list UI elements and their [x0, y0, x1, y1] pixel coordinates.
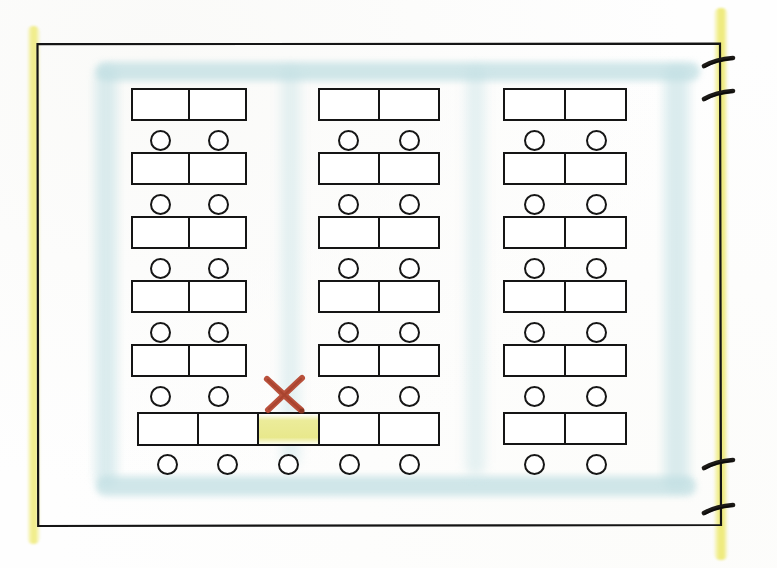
- chair-desk-column-left-desk-row-1-2[interactable]: [208, 130, 229, 151]
- desk-seat-position-2[interactable]: [378, 154, 438, 183]
- chair-desk-column-right-desk-row-5-1[interactable]: [524, 386, 545, 407]
- chair-desk-column-left-desk-row-5-2[interactable]: [208, 386, 229, 407]
- desk-seat-position-2[interactable]: [564, 282, 625, 311]
- desk-seat-position-1[interactable]: [133, 282, 188, 311]
- chair-desk-column-left-desk-row-2-1[interactable]: [150, 194, 171, 215]
- chair-desk-column-center-desk-row-1-2[interactable]: [399, 130, 420, 151]
- desk-desk-column-center-desk-row-3[interactable]: [318, 216, 440, 249]
- desk-desk-column-left-desk-row-4[interactable]: [131, 280, 247, 313]
- desk-seat-position-2[interactable]: [564, 218, 625, 247]
- chair-desk-column-right-desk-row-4-2[interactable]: [586, 322, 607, 343]
- desk-seat-position-2[interactable]: [378, 90, 438, 119]
- chair-desk-column-left-desk-row-4-1[interactable]: [150, 322, 171, 343]
- chair-desk-column-center-desk-row-3-1[interactable]: [338, 258, 359, 279]
- desk-seat-position-2[interactable]: [378, 218, 438, 247]
- desk-seat-position-1[interactable]: [505, 218, 564, 247]
- desk-seat-position-5[interactable]: [378, 414, 438, 444]
- highlighted-seat-position[interactable]: [257, 414, 317, 444]
- desk-desk-column-center-desk-row-2[interactable]: [318, 152, 440, 185]
- desk-seat-position-1[interactable]: [320, 282, 378, 311]
- chair-desk-column-left-desk-row-1-1[interactable]: [150, 130, 171, 151]
- desk-seat-position-1[interactable]: [133, 346, 188, 375]
- chair-desk-column-center-desk-row-3-2[interactable]: [399, 258, 420, 279]
- desk-seat-position-1[interactable]: [505, 282, 564, 311]
- chair-front-bench-row-1[interactable]: [157, 454, 178, 475]
- desk-seat-position-2[interactable]: [188, 218, 245, 247]
- desk-desk-column-right-desk-row-6[interactable]: [503, 412, 627, 445]
- chair-desk-column-right-desk-row-2-2[interactable]: [586, 194, 607, 215]
- desk-seat-position-2[interactable]: [564, 346, 625, 375]
- desk-front-bench-row[interactable]: [137, 412, 440, 446]
- desk-seat-position-2[interactable]: [188, 154, 245, 183]
- chair-desk-column-center-desk-row-4-1[interactable]: [338, 322, 359, 343]
- chair-desk-column-right-desk-row-4-1[interactable]: [524, 322, 545, 343]
- chair-desk-column-right-desk-row-3-1[interactable]: [524, 258, 545, 279]
- chair-desk-column-center-desk-row-4-2[interactable]: [399, 322, 420, 343]
- desk-seat-position-1[interactable]: [139, 414, 197, 444]
- desk-seat-position-2[interactable]: [188, 346, 245, 375]
- chair-desk-column-center-desk-row-5-1[interactable]: [338, 386, 359, 407]
- desk-seat-position-1[interactable]: [133, 90, 188, 119]
- desk-seat-position-1[interactable]: [320, 90, 378, 119]
- chair-desk-column-right-desk-row-6-1[interactable]: [524, 454, 545, 475]
- chair-desk-column-right-desk-row-1-1[interactable]: [524, 130, 545, 151]
- desk-seat-position-1[interactable]: [320, 154, 378, 183]
- desk-seat-position-1[interactable]: [505, 346, 564, 375]
- desk-seat-position-2[interactable]: [378, 346, 438, 375]
- desk-desk-column-center-desk-row-4[interactable]: [318, 280, 440, 313]
- desk-desk-column-left-desk-row-5[interactable]: [131, 344, 247, 377]
- chair-front-bench-row-3[interactable]: [278, 454, 299, 475]
- chair-desk-column-left-desk-row-2-2[interactable]: [208, 194, 229, 215]
- desk-desk-column-left-desk-row-2[interactable]: [131, 152, 247, 185]
- chair-desk-column-center-desk-row-2-2[interactable]: [399, 194, 420, 215]
- desk-seat-position-2[interactable]: [188, 90, 245, 119]
- chair-desk-column-left-desk-row-5-1[interactable]: [150, 386, 171, 407]
- chair-desk-column-right-desk-row-6-2[interactable]: [586, 454, 607, 475]
- desk-seat-position-1[interactable]: [320, 218, 378, 247]
- desk-desk-column-left-desk-row-3[interactable]: [131, 216, 247, 249]
- chair-desk-column-right-desk-row-5-2[interactable]: [586, 386, 607, 407]
- desk-seat-position-2[interactable]: [564, 90, 625, 119]
- desk-desk-column-right-desk-row-3[interactable]: [503, 216, 627, 249]
- chair-desk-column-right-desk-row-3-2[interactable]: [586, 258, 607, 279]
- chair-desk-column-center-desk-row-2-1[interactable]: [338, 194, 359, 215]
- desk-seat-position-1[interactable]: [505, 154, 564, 183]
- chair-desk-column-right-desk-row-1-2[interactable]: [586, 130, 607, 151]
- chair-desk-column-left-desk-row-4-2[interactable]: [208, 322, 229, 343]
- desk-seat-position-2[interactable]: [564, 154, 625, 183]
- floor-plan-canvas: [0, 0, 777, 568]
- chair-front-bench-row-4[interactable]: [339, 454, 360, 475]
- desk-desk-column-right-desk-row-2[interactable]: [503, 152, 627, 185]
- chair-desk-column-left-desk-row-3-1[interactable]: [150, 258, 171, 279]
- desk-seat-position-1[interactable]: [320, 346, 378, 375]
- chair-desk-column-right-desk-row-2-1[interactable]: [524, 194, 545, 215]
- desk-desk-column-right-desk-row-4[interactable]: [503, 280, 627, 313]
- desk-seat-position-2[interactable]: [188, 282, 245, 311]
- desk-desk-column-left-desk-row-1[interactable]: [131, 88, 247, 121]
- chair-desk-column-center-desk-row-5-2[interactable]: [399, 386, 420, 407]
- desk-desk-column-right-desk-row-5[interactable]: [503, 344, 627, 377]
- chair-desk-column-left-desk-row-3-2[interactable]: [208, 258, 229, 279]
- desk-seat-position-2[interactable]: [378, 282, 438, 311]
- desk-seat-position-2[interactable]: [197, 414, 257, 444]
- desk-seat-position-1[interactable]: [133, 154, 188, 183]
- desk-seat-position-1[interactable]: [505, 90, 564, 119]
- desk-desk-column-right-desk-row-1[interactable]: [503, 88, 627, 121]
- desk-seat-position-2[interactable]: [564, 414, 625, 443]
- desk-seat-position-4[interactable]: [318, 414, 378, 444]
- desk-desk-column-center-desk-row-5[interactable]: [318, 344, 440, 377]
- desk-seat-position-1[interactable]: [505, 414, 564, 443]
- desk-seat-position-1[interactable]: [133, 218, 188, 247]
- desk-desk-column-center-desk-row-1[interactable]: [318, 88, 440, 121]
- chair-desk-column-center-desk-row-1-1[interactable]: [338, 130, 359, 151]
